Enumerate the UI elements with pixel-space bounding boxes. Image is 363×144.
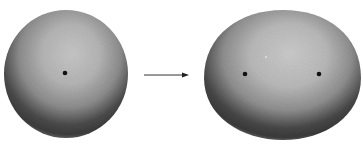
specular-highlight xyxy=(265,56,267,58)
ellipsoid-shape xyxy=(204,10,361,140)
center-dot xyxy=(63,71,68,76)
transformation-arrow xyxy=(144,73,189,78)
sphere-before xyxy=(4,10,128,138)
diagram-canvas xyxy=(0,0,363,144)
right-dot xyxy=(317,72,322,77)
arrow-head-icon xyxy=(182,73,189,78)
transformation-diagram xyxy=(0,0,363,144)
left-dot xyxy=(243,72,248,77)
ellipsoid-after xyxy=(204,10,361,140)
